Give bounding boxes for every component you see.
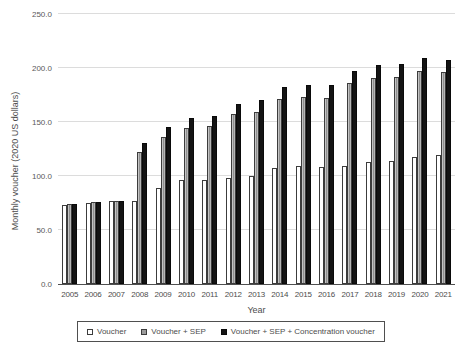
x-tick-label-2009: 2009	[151, 290, 175, 299]
legend: VoucherVoucher + SEPVoucher + SEP + Conc…	[77, 321, 385, 342]
bar-group-2010	[175, 14, 198, 284]
x-tick-label-2012: 2012	[221, 290, 245, 299]
bar-group-2013	[245, 14, 268, 284]
bar-2019-series-3	[399, 64, 404, 284]
legend-item-3: Voucher + SEP + Concentration voucher	[221, 327, 375, 336]
bar-group-2018	[362, 14, 385, 284]
bar-2008-series-3	[142, 143, 147, 284]
legend-label: Voucher	[97, 327, 126, 336]
x-tick-label-2014: 2014	[268, 290, 292, 299]
y-tick-label: 50.0	[10, 226, 52, 235]
bar-group-2009	[151, 14, 174, 284]
bar-group-2012	[221, 14, 244, 284]
bar-2018-series-3	[376, 65, 381, 284]
x-tick-label-2017: 2017	[338, 290, 362, 299]
x-tick-label-2005: 2005	[58, 290, 82, 299]
legend-swatch-icon	[87, 329, 93, 335]
x-tick-label-2015: 2015	[291, 290, 315, 299]
bar-2011-series-3	[212, 116, 217, 284]
bar-2015-series-3	[306, 85, 311, 284]
bar-2007-series-3	[119, 201, 124, 284]
y-tick-label: 150.0	[10, 118, 52, 127]
legend-label: Voucher + SEP + Concentration voucher	[231, 327, 375, 336]
x-tick-label-2013: 2013	[245, 290, 269, 299]
bar-2017-series-3	[352, 71, 357, 284]
y-tick-label: 100.0	[10, 172, 52, 181]
bar-chart-figure: Monthly voucher (2020 US dollars) 0.050.…	[0, 0, 460, 353]
bar-group-2007	[105, 14, 128, 284]
x-tick-label-2019: 2019	[385, 290, 409, 299]
bar-2013-series-3	[259, 100, 264, 284]
x-tick-label-2020: 2020	[408, 290, 432, 299]
legend-item-1: Voucher	[87, 327, 126, 336]
bar-2006-series-3	[96, 202, 101, 284]
bar-group-2014	[268, 14, 291, 284]
x-tick-label-2006: 2006	[81, 290, 105, 299]
bar-2016-series-3	[329, 85, 334, 284]
x-tick-label-2008: 2008	[128, 290, 152, 299]
x-tick-label-2007: 2007	[104, 290, 128, 299]
bar-group-2019	[385, 14, 408, 284]
bar-group-2016	[315, 14, 338, 284]
x-axis-title: Year	[58, 305, 455, 315]
legend-swatch-icon	[221, 329, 227, 335]
y-tick-label: 250.0	[10, 10, 52, 19]
y-tick-label: 0.0	[10, 280, 52, 289]
bar-group-2006	[81, 14, 104, 284]
bar-group-2011	[198, 14, 221, 284]
bar-2009-series-3	[166, 127, 171, 284]
x-tick-label-2010: 2010	[174, 290, 198, 299]
bar-2010-series-3	[189, 118, 194, 284]
legend-label: Voucher + SEP	[151, 327, 205, 336]
bar-2014-series-3	[282, 87, 287, 284]
x-tick-label-2011: 2011	[198, 290, 222, 299]
legend-swatch-icon	[141, 329, 147, 335]
bar-group-2020	[408, 14, 431, 284]
x-tick-label-2018: 2018	[361, 290, 385, 299]
x-tick-label-2016: 2016	[315, 290, 339, 299]
legend-item-2: Voucher + SEP	[141, 327, 205, 336]
x-tick-label-2021: 2021	[431, 290, 455, 299]
bar-2021-series-3	[446, 60, 451, 284]
bar-group-2017	[338, 14, 361, 284]
bar-2012-series-3	[236, 104, 241, 284]
bar-group-2015	[292, 14, 315, 284]
bar-2005-series-3	[72, 204, 77, 284]
bar-group-2005	[58, 14, 81, 284]
plot-area	[58, 14, 455, 285]
bar-group-2021	[432, 14, 455, 284]
bar-group-2008	[128, 14, 151, 284]
y-tick-label: 200.0	[10, 64, 52, 73]
bar-2020-series-3	[422, 58, 427, 284]
